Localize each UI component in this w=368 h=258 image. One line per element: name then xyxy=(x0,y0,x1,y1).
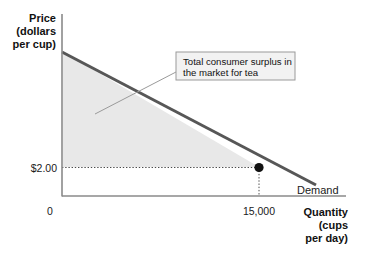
x-axis-title-line-1: Quantity xyxy=(303,206,348,218)
demand-curve-label: Demand xyxy=(297,184,339,196)
x-axis-title-line-3: per day) xyxy=(305,232,348,244)
x-axis-title-line-2: (cups xyxy=(319,219,348,231)
equilibrium-point-marker xyxy=(254,163,263,172)
callout-line-1: Total consumer surplus in xyxy=(183,56,292,67)
callout-line-2: the market for tea xyxy=(183,67,259,78)
consumer-surplus-chart: Total consumer surplus in the market for… xyxy=(0,0,368,258)
y-axis-title-line-2: (dollars xyxy=(16,25,56,37)
x-tick-label-quantity: 15,000 xyxy=(243,205,275,217)
origin-tick-label: 0 xyxy=(47,205,53,217)
y-axis-title-line-3: per cup) xyxy=(13,38,57,50)
chart-canvas: Total consumer surplus in the market for… xyxy=(0,0,368,258)
y-tick-label-price: $2.00 xyxy=(31,162,57,174)
y-axis-title-line-1: Price xyxy=(29,12,56,24)
